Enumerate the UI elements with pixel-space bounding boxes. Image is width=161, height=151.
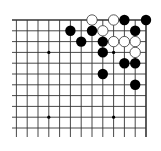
white-stone — [108, 15, 118, 25]
white-stone — [119, 36, 129, 46]
hoshi-point-icon — [112, 116, 115, 119]
black-stone — [87, 26, 97, 36]
white-stone — [98, 26, 108, 36]
black-stone — [98, 47, 108, 57]
board-grid — [0, 0, 161, 151]
black-stone — [130, 26, 140, 36]
black-stone — [98, 36, 108, 46]
black-stone — [130, 58, 140, 68]
black-stone — [141, 15, 151, 25]
white-stone — [108, 36, 118, 46]
black-stone — [65, 26, 75, 36]
black-stone — [119, 58, 129, 68]
white-stone — [130, 36, 140, 46]
black-stone — [98, 69, 108, 79]
hoshi-point-icon — [47, 116, 50, 119]
black-stone — [119, 15, 129, 25]
white-stone — [87, 15, 97, 25]
white-stone — [130, 47, 140, 57]
black-stone — [76, 36, 86, 46]
black-stone — [130, 80, 140, 90]
go-board[interactable] — [0, 0, 161, 151]
hoshi-point-icon — [112, 51, 115, 54]
hoshi-point-icon — [47, 51, 50, 54]
